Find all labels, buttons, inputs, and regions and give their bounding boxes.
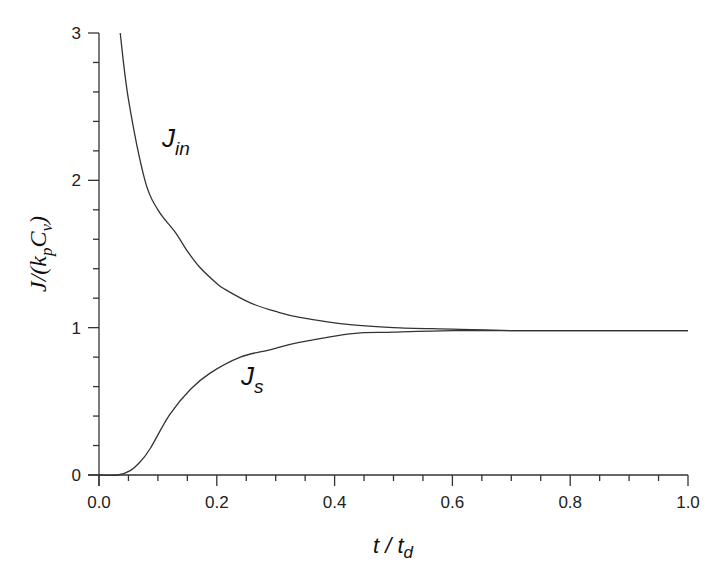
y-axis-title: J/(kpCv) xyxy=(25,216,56,292)
x-tick-label: 0.0 xyxy=(87,493,111,512)
y-tick-label: 1 xyxy=(72,319,81,338)
x-tick-label: 1.0 xyxy=(676,493,700,512)
x-tick-label: 0.8 xyxy=(558,493,582,512)
x-tick-label: 0.4 xyxy=(323,493,347,512)
x-tick-label: 0.6 xyxy=(441,493,465,512)
x-axis-title: t / td xyxy=(373,533,414,562)
curve-label-j-in: Jin xyxy=(161,123,190,159)
y-tick-label: 3 xyxy=(72,24,81,43)
curve-j-in xyxy=(120,33,688,331)
plot-area xyxy=(99,33,688,475)
y-tick-label: 2 xyxy=(72,171,81,190)
x-tick-label: 0.2 xyxy=(205,493,229,512)
axes: 0.00.20.40.60.81.00123 xyxy=(72,24,700,512)
y-tick-label: 0 xyxy=(72,466,81,485)
curve-label-j-s: Js xyxy=(240,361,264,397)
curve-j-s xyxy=(99,331,688,476)
line-chart: 0.00.20.40.60.81.00123 Jin Js t / td J/(… xyxy=(0,0,718,583)
